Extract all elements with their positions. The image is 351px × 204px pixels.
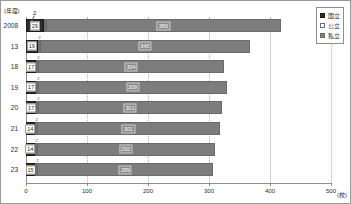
bar-row[interactable]: 17304 xyxy=(26,60,224,73)
x-tick-label-400: 400 xyxy=(265,188,275,194)
x-tick-200 xyxy=(148,183,149,186)
bar-row[interactable]: 19345 xyxy=(26,40,250,53)
legend-item-shiritsu[interactable]: 私立 xyxy=(320,31,340,40)
x-tick-100 xyxy=(87,183,88,186)
bar-value-label: 301 xyxy=(124,103,137,112)
y-axis-label-20: 20 xyxy=(0,104,18,111)
bar-segment-国立: 15 xyxy=(26,163,35,176)
bar-row[interactable]: 29386 xyxy=(26,19,281,32)
x-axis-unit-label: (校) xyxy=(337,190,347,199)
bar-value-label: 17 xyxy=(26,83,36,92)
x-tick-label-200: 200 xyxy=(143,188,153,194)
bar-segment-私立: 304 xyxy=(38,60,223,73)
bar-segment-私立: 301 xyxy=(38,101,222,114)
bar-value-label: 17 xyxy=(26,103,36,112)
bar-segment-私立: 309 xyxy=(38,81,226,94)
bar-value-label: 386 xyxy=(157,21,170,30)
bar-segment-国立: 17 xyxy=(26,81,36,94)
bar-segment-国立: 19 xyxy=(26,40,38,53)
x-tick-300 xyxy=(209,183,210,186)
koritsu-tick-mark: 2 xyxy=(36,139,38,143)
bar-segment-国立: 29 xyxy=(26,19,44,32)
x-tick-500 xyxy=(331,183,332,186)
bar-segment-国立: 17 xyxy=(26,101,36,114)
y-axis-label-22: 22 xyxy=(0,146,18,153)
koritsu-tick-mark: 2 xyxy=(36,118,38,122)
bar-chart: (年度) (校) 0100200300400500 20082938613193… xyxy=(0,0,351,204)
bar-segment-私立: 289 xyxy=(37,163,213,176)
x-tick-label-0: 0 xyxy=(24,188,27,194)
bar-value-label: 15 xyxy=(26,165,36,174)
bar-row[interactable]: 14301 xyxy=(26,122,220,135)
bar-value-label: 29 xyxy=(30,21,40,30)
y-axis-unit-label: (年度) xyxy=(4,6,19,15)
bar-row[interactable]: 15289 xyxy=(26,163,213,176)
bar-value-label: 301 xyxy=(122,124,135,133)
gridline-400 xyxy=(270,17,271,183)
bar-row[interactable]: 14292 xyxy=(26,143,215,156)
legend-swatch-kokuritsu xyxy=(320,13,325,18)
legend-swatch-shiritsu xyxy=(320,33,325,38)
bar-segment-私立: 301 xyxy=(37,122,221,135)
bar-segment-国立: 14 xyxy=(26,122,35,135)
y-axis-label-2008: 2008 xyxy=(0,22,18,29)
x-tick-label-300: 300 xyxy=(204,188,214,194)
koritsu-tick-mark: 2 xyxy=(36,159,38,163)
bar-value-label: 292 xyxy=(119,145,132,154)
y-axis-label-21: 21 xyxy=(0,125,18,132)
y-axis-label-19: 19 xyxy=(0,84,18,91)
bar-segment-私立: 345 xyxy=(40,40,250,53)
legend-label-koritsu: 公立 xyxy=(328,21,340,30)
legend-label-shiritsu: 私立 xyxy=(328,31,340,40)
legend-swatch-koritsu xyxy=(320,23,325,28)
bar-row[interactable]: 17309 xyxy=(26,81,227,94)
x-tick-0 xyxy=(26,183,27,186)
bar-value-label: 304 xyxy=(124,62,137,71)
bar-value-label: 309 xyxy=(126,83,139,92)
bar-segment-国立: 14 xyxy=(26,143,35,156)
x-tick-label-500: 500 xyxy=(326,188,336,194)
legend-item-koritsu[interactable]: 公立 xyxy=(320,21,340,30)
y-axis-label-13: 13 xyxy=(0,43,18,50)
koritsu-tick-mark: 2 xyxy=(37,97,39,101)
koritsu-tick-mark: 2 xyxy=(37,77,39,81)
koritsu-tick-mark: 2 xyxy=(37,56,39,60)
legend: 国立 公立 私立 xyxy=(316,7,344,44)
bar-segment-私立: 386 xyxy=(46,19,281,32)
koritsu-tick-mark: 2 xyxy=(39,36,41,40)
bar-segment-私立: 292 xyxy=(37,143,215,156)
legend-item-kokuritsu[interactable]: 国立 xyxy=(320,11,340,20)
legend-label-kokuritsu: 国立 xyxy=(328,11,340,20)
bar-value-label: 19 xyxy=(27,42,37,51)
bar-value-label: 17 xyxy=(26,62,36,71)
y-axis-label-23: 23 xyxy=(0,166,18,173)
bar-segment-国立: 17 xyxy=(26,60,36,73)
bar-value-label: 345 xyxy=(138,42,151,51)
x-axis-line xyxy=(26,183,332,184)
x-tick-400 xyxy=(270,183,271,186)
bar-value-label: 289 xyxy=(119,165,132,174)
y-axis-label-18: 18 xyxy=(0,63,18,70)
bar-row[interactable]: 17301 xyxy=(26,101,222,114)
x-tick-label-100: 100 xyxy=(82,188,92,194)
